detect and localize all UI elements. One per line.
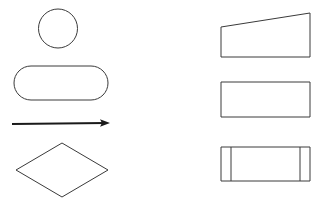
predefined-process-shape[interactable] — [221, 147, 310, 181]
arrow-shape[interactable] — [12, 119, 110, 126]
diamond-shape[interactable] — [16, 143, 108, 197]
rectangle-shape[interactable] — [221, 82, 310, 117]
left-column — [12, 9, 110, 197]
right-column — [221, 13, 310, 181]
flowchart-shapes-svg — [0, 0, 328, 203]
circle-shape[interactable] — [39, 9, 78, 48]
trapezoid-shape[interactable] — [221, 13, 310, 57]
predefined-process-outer-rect — [221, 147, 310, 181]
diagram-canvas — [0, 0, 328, 203]
arrow-line — [12, 123, 106, 124]
rounded-rectangle-shape[interactable] — [14, 66, 108, 100]
